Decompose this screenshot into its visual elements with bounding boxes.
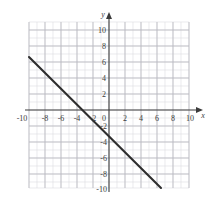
coordinate-graph: -10 -8 -6 -4 -2 0 2 4 6 8 10 10 8 6 4 2 … xyxy=(0,0,216,197)
x-tick-label: -4 xyxy=(74,114,81,123)
graph-canvas: -10 -8 -6 -4 -2 0 2 4 6 8 10 10 8 6 4 2 … xyxy=(0,0,216,197)
y-tick-label: 6 xyxy=(102,58,106,67)
x-tick-label: 2 xyxy=(123,114,127,123)
y-tick-label: -2 xyxy=(100,122,107,131)
y-tick-label: -10 xyxy=(96,185,107,194)
y-tick-label: 8 xyxy=(102,42,106,51)
x-tick-label: 4 xyxy=(139,114,143,123)
x-axis-label: x xyxy=(200,111,205,120)
x-tick-label: 10 xyxy=(186,114,194,123)
x-tick-label: 8 xyxy=(171,114,175,123)
y-axis-label: y xyxy=(100,10,105,19)
y-tick-label: -4 xyxy=(100,138,107,147)
y-tick-label: -6 xyxy=(100,154,107,163)
x-tick-label: -10 xyxy=(17,114,28,123)
x-tick-label: -6 xyxy=(58,114,65,123)
y-tick-label: 10 xyxy=(98,26,106,35)
y-tick-label: 4 xyxy=(102,74,106,83)
y-tick-label: 2 xyxy=(102,90,106,99)
x-tick-label: -8 xyxy=(42,114,49,123)
x-tick-label: -2 xyxy=(90,114,97,123)
y-tick-label: -8 xyxy=(100,170,107,179)
arrow-up-icon xyxy=(106,12,112,19)
x-tick-label: 6 xyxy=(155,114,159,123)
